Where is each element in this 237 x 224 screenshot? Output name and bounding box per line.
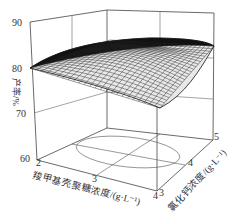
x-tick: 2 <box>36 157 41 168</box>
floor-contour-ellipse <box>75 132 182 173</box>
y-tick: 4 <box>188 157 193 168</box>
z-axis-title: 产率/% <box>11 78 22 107</box>
z-tick: 70 <box>16 108 26 119</box>
y-axis-title: 氯化钙浓度/(g·L⁻¹) <box>165 147 229 214</box>
x-axis-title: 羧甲基壳聚糖浓度/(g·L⁻¹) <box>31 169 141 207</box>
floor-grid <box>72 132 185 175</box>
z-tick: 80 <box>12 63 22 74</box>
x-tick: 3 <box>92 173 97 184</box>
y-tick: 3 <box>159 187 164 198</box>
z-tick: 90 <box>12 17 22 28</box>
x-tick: 4 <box>153 190 158 201</box>
y-tick: 5 <box>214 131 219 142</box>
axes-box <box>30 10 214 191</box>
surface-chart: 90 80 70 60 2 3 4 3 4 5 产率/% 羧甲基壳聚糖浓度/(g… <box>0 0 237 224</box>
z-tick: 60 <box>20 153 30 164</box>
